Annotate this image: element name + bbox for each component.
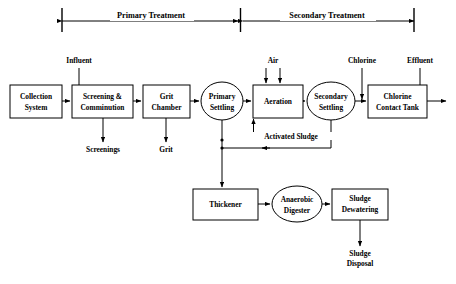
node-collection-system[interactable]: Collection System [10, 85, 62, 118]
node-primary-settling-label-2: Settling [210, 103, 235, 112]
junction-dot-ras [220, 138, 223, 141]
flow-label-effluent: Effluent [407, 56, 433, 65]
residual-waste-streams [103, 118, 166, 142]
node-grit-chamber-body[interactable] [143, 85, 190, 118]
node-aeration-label-1: Aeration [264, 97, 292, 106]
node-sludge-dewatering-label-1: Sludge [349, 194, 371, 203]
node-collection-system-label-1: Collection [20, 92, 52, 101]
node-screening-comminution-label-1: Screening & [83, 92, 122, 101]
node-secondary-settling-body[interactable] [307, 82, 355, 120]
diagram-canvas: Primary Treatment Secondary Treatment [0, 0, 456, 284]
flow-label-influent: Influent [66, 56, 92, 65]
node-chlorine-contact-tank-label-2: Contact Tank [376, 103, 420, 112]
node-primary-settling-body[interactable] [201, 82, 243, 120]
node-chlorine-contact-tank-label-1: Chlorine [384, 92, 413, 101]
node-aeration[interactable]: Aeration [253, 85, 303, 118]
node-collection-system-body[interactable] [10, 85, 62, 118]
node-anaerobic-digester-body[interactable] [272, 186, 322, 222]
flow-label-chlorine: Chlorine [348, 56, 377, 65]
activated-sludge-return-loop: Activated Sludge [222, 119, 332, 148]
node-secondary-settling-label-1: Secondary [314, 92, 348, 101]
node-screening-comminution-label-2: Comminution [81, 103, 125, 112]
node-thickener[interactable]: Thickener [193, 189, 258, 220]
node-anaerobic-digester-label-1: Anaerobic [281, 195, 314, 204]
node-primary-settling[interactable]: Primary Settling [201, 82, 243, 120]
node-anaerobic-digester-label-2: Digester [284, 206, 311, 215]
node-anaerobic-digester[interactable]: Anaerobic Digester [272, 186, 322, 222]
node-primary-settling-label-1: Primary [209, 92, 236, 101]
flow-label-grit: Grit [159, 145, 173, 154]
node-thickener-label-1: Thickener [209, 200, 242, 209]
node-sludge-dewatering[interactable]: Sludge Dewatering [332, 189, 388, 220]
node-screening-comminution-body[interactable] [72, 85, 133, 118]
node-screening-comminution[interactable]: Screening & Comminution [72, 85, 133, 118]
section-label-primary-treatment: Primary Treatment [117, 11, 185, 20]
flow-label-air: Air [268, 56, 279, 65]
node-secondary-settling-label-2: Settling [319, 103, 344, 112]
node-chlorine-contact-tank-body[interactable] [368, 85, 427, 118]
flow-label-sludge-disposal-line-2: Disposal [347, 259, 374, 268]
node-chlorine-contact-tank[interactable]: Chlorine Contact Tank [368, 85, 427, 118]
treatment-stage-brackets: Primary Treatment Secondary Treatment [62, 8, 414, 32]
flow-label-screenings: Screenings [86, 145, 120, 154]
node-grit-chamber-label-2: Chamber [152, 103, 183, 112]
wastewater-treatment-diagram: Primary Treatment Secondary Treatment [0, 0, 456, 284]
flow-label-sludge-disposal-line-1: Sludge [349, 249, 371, 258]
flow-label-activated-sludge: Activated Sludge [264, 132, 318, 141]
process-nodes: Collection System Screening & Comminutio… [10, 82, 427, 222]
junction-dot-was [220, 146, 223, 149]
section-label-secondary-treatment: Secondary Treatment [289, 11, 365, 20]
node-grit-chamber-label-1: Grit [160, 92, 174, 101]
node-grit-chamber[interactable]: Grit Chamber [143, 85, 190, 118]
node-sludge-dewatering-label-2: Dewatering [342, 205, 379, 214]
node-collection-system-label-2: System [25, 103, 48, 112]
node-secondary-settling[interactable]: Secondary Settling [307, 82, 355, 120]
